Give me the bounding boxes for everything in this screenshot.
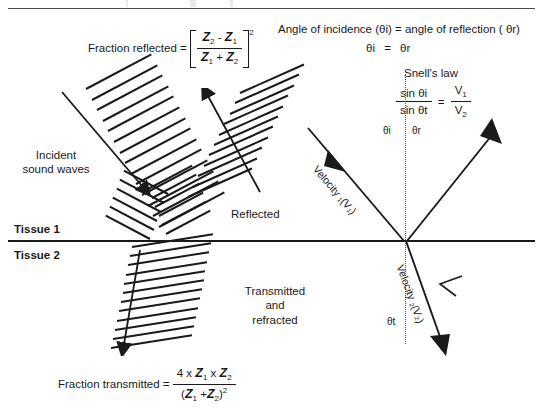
incident-waves-label: Incident sound waves bbox=[16, 148, 96, 177]
fraction-reflected-label: Fraction reflected = bbox=[88, 42, 187, 54]
z1-subscript-num: 1 bbox=[203, 373, 207, 382]
z2-symbol-den2: Z bbox=[207, 387, 215, 401]
z2-symbol: Z bbox=[202, 30, 210, 44]
plus-operator: + bbox=[216, 51, 223, 63]
plus-operator-den: + bbox=[200, 388, 207, 400]
reflected-arrow-icon bbox=[198, 88, 278, 198]
header-rule bbox=[8, 8, 535, 9]
wavefront-line bbox=[166, 210, 211, 235]
transmission-numerator: 4 x Z1 x Z2 bbox=[173, 366, 236, 384]
fraction-transmitted-label: Fraction transmitted = bbox=[58, 378, 170, 390]
tissue-1-label: Tissue 1 bbox=[14, 222, 60, 236]
impedance-ratio-fraction: Z2 - Z1 Z1 + Z2 bbox=[197, 30, 242, 68]
fraction-denominator: Z1 + Z2 bbox=[197, 48, 242, 67]
snells-equals-sign: = bbox=[435, 96, 448, 108]
four-times: 4 x bbox=[177, 367, 192, 379]
v1-subscript: 1 bbox=[462, 90, 466, 99]
transmitted-label-line2: and bbox=[222, 298, 328, 312]
transmitted-label-line1: Transmitted bbox=[222, 284, 328, 298]
squared-exponent: 2 bbox=[249, 28, 253, 37]
theta-i-label: θi bbox=[383, 125, 391, 138]
reflected-label: Reflected bbox=[231, 207, 280, 221]
theta-r-equation: θr bbox=[400, 42, 410, 54]
sin-theta-i: sin θi bbox=[396, 86, 432, 101]
wavefront-line bbox=[105, 215, 150, 240]
theta-t-label: θt bbox=[387, 316, 395, 329]
fraction-reflected-formula: Fraction reflected = Z2 - Z1 Z1 + Z2 2 bbox=[88, 30, 254, 68]
bracket-group: Z2 - Z1 Z1 + Z2 bbox=[190, 30, 249, 68]
z1-symbol-den: Z bbox=[201, 50, 209, 64]
interference-crosshatch-up bbox=[150, 238, 151, 239]
theta-i-equation: θi bbox=[366, 42, 375, 54]
z2-subscript: 2 bbox=[210, 37, 214, 46]
z1-symbol-den2: Z bbox=[185, 387, 193, 401]
minus-operator: - bbox=[218, 31, 222, 43]
tissue-2-label: Tissue 2 bbox=[14, 248, 60, 262]
snells-law-title: Snell's law bbox=[404, 66, 458, 80]
scan-ghost-artifact bbox=[120, 0, 320, 7]
den-exponent: 2 bbox=[223, 386, 227, 395]
angle-law-line1: Angle of incidence (θi) = angle of refle… bbox=[278, 22, 520, 36]
transmission-denominator: (Z1 +Z2)2 bbox=[173, 384, 236, 404]
z2-symbol-den: Z bbox=[226, 50, 234, 64]
transmitted-refracted-label: Transmitted and refracted bbox=[222, 284, 328, 327]
transmitted-label-line3: refracted bbox=[222, 313, 328, 327]
z2-subscript-num: 2 bbox=[227, 373, 231, 382]
transmission-fraction: 4 x Z1 x Z2 (Z1 +Z2)2 bbox=[173, 366, 236, 404]
z1-subscript-den2: 1 bbox=[193, 394, 197, 403]
interference-crosshatch-down bbox=[148, 188, 149, 189]
z2-subscript-den: 2 bbox=[234, 58, 238, 67]
times-operator: x bbox=[211, 367, 217, 379]
theta-r-label: θr bbox=[412, 125, 421, 138]
z1-subscript-den: 1 bbox=[209, 58, 213, 67]
z1-symbol-num: Z bbox=[195, 366, 203, 380]
z1-subscript: 1 bbox=[232, 37, 236, 46]
fraction-transmitted-formula: Fraction transmitted = 4 x Z1 x Z2 (Z1 +… bbox=[58, 366, 236, 404]
v1-term: V1 bbox=[451, 83, 471, 101]
incident-label-line2: sound waves bbox=[16, 162, 96, 176]
diagram-canvas: Fraction reflected = Z2 - Z1 Z1 + Z2 2 A… bbox=[0, 0, 543, 415]
angle-law-line2: θi = θr bbox=[366, 41, 410, 55]
transmitted-arrow-icon bbox=[114, 246, 154, 356]
equals-sign: = bbox=[378, 42, 397, 54]
reflected-wave-beam bbox=[188, 196, 189, 197]
incident-label-line1: Incident bbox=[16, 148, 96, 162]
fraction-numerator: Z2 - Z1 bbox=[197, 30, 242, 48]
